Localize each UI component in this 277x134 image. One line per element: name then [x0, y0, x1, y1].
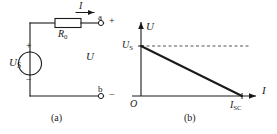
- plot-origin-label: O: [130, 99, 137, 109]
- current-label: I: [79, 1, 82, 11]
- source-minus-sign: −: [26, 75, 32, 85]
- terminal-a-sign: +: [109, 16, 115, 26]
- terminal-voltage-label: U: [86, 51, 94, 62]
- source-label: US: [9, 57, 21, 69]
- figure-container: US + − R0 I U a + b − (a) U I US O ISC (…: [0, 0, 277, 134]
- terminal-b-label: b: [98, 85, 103, 94]
- subfigure-a-caption: (a): [51, 113, 62, 123]
- plot-vector: [132, 22, 256, 99]
- resistor-body: [55, 19, 81, 28]
- plot-characteristic-line: [141, 46, 242, 96]
- terminal-b-node: [98, 93, 103, 98]
- source-label-subscript: S: [17, 61, 21, 70]
- figure-vector-graphics: [0, 0, 277, 134]
- plot-y-axis-label: U: [146, 21, 154, 32]
- source-plus-sign: +: [26, 41, 32, 51]
- plot-y-intercept-subscript: S: [129, 44, 133, 51]
- resistor-label-subscript: 0: [64, 33, 67, 40]
- plot-y-intercept-label: US: [122, 40, 133, 51]
- subfigure-b-caption: (b): [184, 113, 196, 123]
- resistor-label: R0: [58, 29, 68, 40]
- plot-x-axis-label: I: [262, 85, 266, 96]
- plot-x-intercept-subscript: SC: [233, 104, 241, 111]
- terminal-b-sign: −: [109, 90, 115, 100]
- plot-x-intercept-label: ISC: [230, 100, 242, 111]
- terminal-a-label: a: [98, 13, 102, 22]
